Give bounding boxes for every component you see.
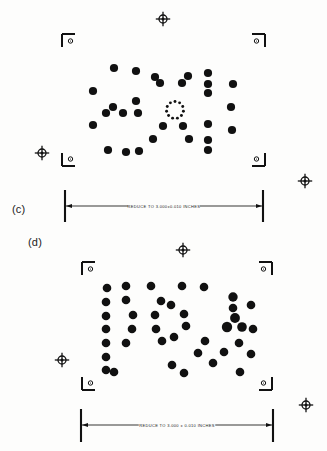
pattern-dot <box>89 87 97 95</box>
pattern-dot <box>209 359 218 368</box>
pattern-dot <box>122 282 131 291</box>
ring-dot <box>176 117 179 120</box>
corner-mark-top-left <box>82 262 95 275</box>
ring-dot <box>171 117 174 120</box>
pattern-dot <box>102 339 111 348</box>
pattern-dot <box>149 135 157 143</box>
pattern-dot <box>204 136 212 144</box>
dimension-arrowhead-right <box>266 423 272 427</box>
corner-mark-bottom-left <box>82 377 95 390</box>
pattern-dot <box>132 67 140 75</box>
panel-c-canvas: REDUCE TO 3.000±0.010 INCHES <box>0 0 327 228</box>
pattern-dot <box>168 361 177 370</box>
target-center-dot <box>162 18 165 21</box>
pattern-dot <box>135 147 143 155</box>
panel-c: (c) REDUCE TO 3.000±0.010 INCHES <box>0 0 327 228</box>
corner-mark-top-right <box>259 262 272 275</box>
pattern-dot <box>204 80 212 88</box>
pattern-dot <box>151 311 160 320</box>
ring-dot <box>178 101 181 104</box>
panel-d-dimension-note: REDUCE TO 3.000 ± 0.010 INCHES <box>139 423 215 428</box>
target-center-dot <box>41 152 44 155</box>
corner-circle-center-dot <box>70 40 71 41</box>
dimension-arrowhead-left <box>66 204 72 208</box>
ring-dot <box>174 100 177 103</box>
pattern-dot <box>228 126 236 134</box>
registration-target-top <box>156 12 170 26</box>
pattern-dot <box>194 349 203 358</box>
pattern-dot <box>228 292 237 301</box>
corner-circle-center-dot <box>90 268 91 269</box>
ring-dot <box>167 114 170 117</box>
pattern-dot <box>170 333 179 342</box>
pattern-dot <box>109 103 117 111</box>
panel-c-dot-pattern <box>89 64 237 156</box>
panel-c-dimension-callout: REDUCE TO 3.000±0.010 INCHES <box>65 190 263 222</box>
pattern-dot <box>110 368 119 377</box>
pattern-dot <box>178 79 186 87</box>
pattern-dot <box>119 109 127 117</box>
panel-d-dimension-callout: REDUCE TO 3.000 ± 0.010 INCHES <box>81 409 273 442</box>
corner-circle-center-dot <box>256 158 257 159</box>
pattern-dot <box>180 369 189 378</box>
pattern-dot <box>122 339 131 348</box>
target-center-dot <box>182 249 185 252</box>
ring-dot <box>180 114 183 117</box>
pattern-dot <box>102 366 111 375</box>
pattern-dot <box>156 79 164 87</box>
ring-dot <box>169 101 172 104</box>
pattern-dot <box>167 301 176 310</box>
center-ring-of-small-dots <box>165 100 185 120</box>
pattern-dot <box>222 322 232 332</box>
figure-root: (c) REDUCE TO 3.000±0.010 INCHES (d) RED… <box>0 0 327 451</box>
pattern-dot <box>102 298 111 307</box>
pattern-dot <box>200 283 209 292</box>
pattern-dot <box>235 339 244 348</box>
panel-c-dimension-note: REDUCE TO 3.000±0.010 INCHES <box>128 204 201 209</box>
pattern-dot <box>249 325 258 334</box>
corner-circle-center-dot <box>90 382 91 383</box>
corner-mark-bottom-right <box>259 377 272 390</box>
pattern-dot <box>204 89 212 97</box>
pattern-dot <box>157 297 166 306</box>
corner-mark-top-right <box>252 34 265 47</box>
pattern-dot <box>159 122 167 130</box>
corner-circle-center-dot <box>263 268 264 269</box>
target-center-dot <box>304 180 307 183</box>
pattern-dot <box>147 282 156 291</box>
pattern-dot <box>102 353 111 362</box>
pattern-dot <box>158 337 167 346</box>
corner-circle-center-dot <box>263 382 264 383</box>
pattern-dot <box>122 148 130 156</box>
pattern-dot <box>182 322 191 331</box>
pattern-dot <box>122 296 131 305</box>
registration-target-top <box>176 243 190 257</box>
pattern-dot <box>229 304 238 313</box>
registration-target-left <box>35 146 49 160</box>
pattern-dot <box>179 122 187 130</box>
pattern-dot <box>230 313 240 323</box>
pattern-dot <box>110 64 118 72</box>
corner-mark-bottom-left <box>62 153 75 166</box>
pattern-dot <box>134 109 142 117</box>
ring-dot <box>165 110 168 113</box>
pattern-dot <box>220 348 229 357</box>
ring-dot <box>182 110 185 113</box>
pattern-dot <box>132 97 140 105</box>
dimension-arrowhead-left <box>82 423 88 427</box>
pattern-dot <box>103 284 112 293</box>
pattern-dot <box>229 80 237 88</box>
registration-target-right <box>298 174 312 188</box>
pattern-dot <box>247 301 256 310</box>
pattern-dot <box>152 325 161 334</box>
registration-target-right <box>299 398 313 412</box>
ring-dot <box>181 105 184 108</box>
pattern-dot <box>247 350 256 359</box>
pattern-dot <box>178 282 187 291</box>
pattern-dot <box>104 146 112 154</box>
pattern-dot <box>102 325 111 334</box>
pattern-dot <box>89 121 97 129</box>
pattern-dot <box>204 120 212 128</box>
pattern-dot <box>128 325 137 334</box>
pattern-dot <box>227 103 235 111</box>
